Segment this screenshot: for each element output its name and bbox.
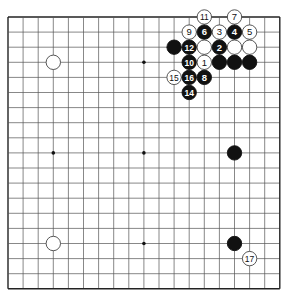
move-number: 14 xyxy=(184,88,194,98)
black-stone xyxy=(212,55,226,69)
white-stone xyxy=(242,40,256,54)
move-number: 5 xyxy=(247,26,252,37)
black-stone: 2 xyxy=(212,40,226,54)
move-number: 2 xyxy=(217,42,222,53)
white-stone xyxy=(227,40,241,54)
black-stone: 12 xyxy=(182,40,196,54)
white-stone xyxy=(46,236,60,250)
black-stone xyxy=(227,146,241,160)
white-stone: 7 xyxy=(227,10,241,24)
white-stone: 15 xyxy=(167,70,181,84)
white-stone: 17 xyxy=(242,251,256,265)
black-stone: 16 xyxy=(182,70,196,84)
star-point xyxy=(142,61,146,65)
black-stone: 14 xyxy=(182,85,196,99)
move-number: 9 xyxy=(187,26,192,37)
move-number: 10 xyxy=(184,58,194,68)
black-stone: 6 xyxy=(197,25,211,39)
white-stone: 9 xyxy=(182,25,196,39)
white-stone xyxy=(197,40,211,54)
star-point xyxy=(142,242,146,246)
move-number: 12 xyxy=(184,43,194,53)
move-number: 1 xyxy=(202,57,207,68)
go-board-diagram: 11796345122101151681417 xyxy=(0,0,287,305)
move-number: 11 xyxy=(200,12,209,22)
star-point xyxy=(142,151,146,155)
black-stone xyxy=(242,55,256,69)
star-point xyxy=(52,151,56,155)
white-stone xyxy=(46,55,60,69)
white-stone: 11 xyxy=(197,10,211,24)
black-stone xyxy=(167,40,181,54)
white-stone: 3 xyxy=(212,25,226,39)
white-stone: 1 xyxy=(197,55,211,69)
black-stone: 8 xyxy=(197,70,211,84)
move-number: 7 xyxy=(232,11,237,22)
black-stone: 10 xyxy=(182,55,196,69)
move-number: 3 xyxy=(217,26,222,37)
move-number: 4 xyxy=(232,26,238,37)
black-stone: 4 xyxy=(227,25,241,39)
move-number: 8 xyxy=(202,72,207,83)
black-stone xyxy=(227,236,241,250)
move-number: 16 xyxy=(184,73,194,83)
white-stone: 5 xyxy=(242,25,256,39)
move-number: 6 xyxy=(202,26,207,37)
black-stone xyxy=(227,55,241,69)
move-number: 17 xyxy=(245,254,255,264)
move-number: 15 xyxy=(169,73,179,83)
